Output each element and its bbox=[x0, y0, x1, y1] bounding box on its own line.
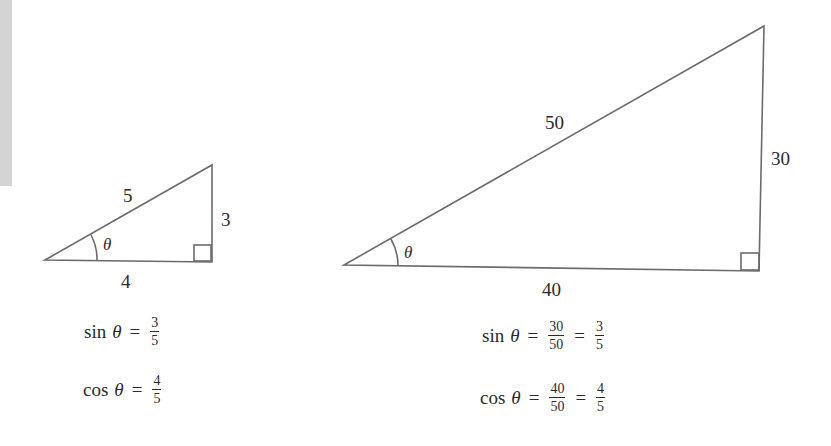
cos-equation-small: cos θ = 4 5 bbox=[83, 374, 163, 406]
fraction: 30 50 bbox=[548, 320, 564, 352]
fraction: 4 5 bbox=[152, 374, 161, 406]
opposite-label-large: 30 bbox=[771, 149, 790, 168]
hypotenuse-label-small: 5 bbox=[123, 186, 133, 205]
sin-equation-small: sin θ = 3 5 bbox=[84, 316, 161, 348]
small-triangle bbox=[45, 165, 212, 262]
sin-equation-large: sin θ = 30 50 = 3 5 bbox=[482, 320, 606, 352]
fraction: 3 5 bbox=[150, 316, 159, 348]
right-angle-marker bbox=[194, 245, 211, 261]
hypotenuse-label-large: 50 bbox=[545, 113, 564, 132]
adjacent-label-large: 40 bbox=[542, 280, 561, 299]
right-angle-marker bbox=[741, 253, 759, 270]
adjacent-label-small: 4 bbox=[121, 272, 131, 291]
angle-arc bbox=[391, 239, 398, 266]
large-triangle bbox=[344, 26, 764, 271]
opposite-label-small: 3 bbox=[221, 210, 231, 229]
angle-label-large: θ bbox=[404, 244, 412, 261]
angle-label-small: θ bbox=[103, 236, 111, 253]
fraction: 3 5 bbox=[595, 320, 604, 352]
fraction: 40 50 bbox=[549, 382, 565, 414]
fraction: 4 5 bbox=[596, 382, 605, 414]
cos-equation-large: cos θ = 40 50 = 4 5 bbox=[480, 382, 607, 414]
angle-arc bbox=[91, 235, 97, 261]
